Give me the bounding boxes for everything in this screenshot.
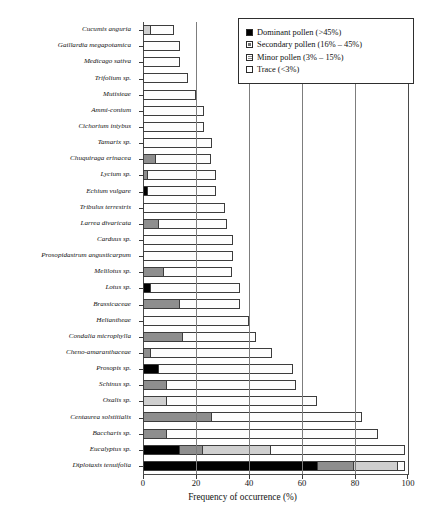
y-tick [139,143,143,144]
stacked-bar [143,299,241,309]
stacked-bar [143,251,233,261]
y-tick [139,418,143,419]
bar-row [143,348,408,358]
bar-segment-trace [143,122,204,132]
bar-segment-trace [166,429,378,439]
y-axis-label: Prosopidastrum angusticarpum [41,252,131,259]
bar-row [143,380,408,390]
y-axis-label: Tribulus terrestris [80,204,131,211]
gridline-80 [355,22,356,474]
legend: Dominant pollen (>45%) Secondary pollen … [238,18,414,84]
y-tick [139,434,143,435]
bar-segment-secondary [143,154,156,164]
stacked-bar [143,122,204,132]
y-tick [139,62,143,63]
y-tick [139,466,143,467]
bar-segment-secondary [143,332,183,342]
y-tick [139,95,143,96]
bar-row [143,299,408,309]
legend-item-minor: Minor pollen (3% – 15%) [246,53,407,62]
y-tick [139,192,143,193]
y-axis-label: Condalia microphylla [69,333,131,340]
bar-row [143,90,408,100]
stacked-bar [143,412,363,422]
y-tick [139,224,143,225]
bar-segment-secondary [143,380,167,390]
bar-segment-trace [143,106,204,116]
stacked-bar [143,332,257,342]
y-axis-label: Cichorium intybus [78,123,131,130]
bar-segment-trace [143,41,180,51]
legend-item-trace: Trace (<3%) [246,65,407,74]
y-tick [139,111,143,112]
bar-row [143,122,408,132]
bar-row [143,316,408,326]
bar-segment-dominant [143,364,159,374]
y-tick [139,46,143,47]
bar-segment-trace [158,219,227,229]
axis-line-right [408,22,409,474]
stacked-bar [143,364,294,374]
stacked-bar [143,154,212,164]
legend-label-minor: Minor pollen (3% – 15%) [257,53,344,62]
stacked-bar [143,429,379,439]
bar-segment-trace [143,138,212,148]
stacked-bar [143,219,228,229]
legend-swatch-minor-icon [246,54,253,61]
y-tick [139,369,143,370]
bar-segment-trace [155,154,211,164]
bar-segment-trace [143,251,233,261]
x-tick-label-60: 60 [298,478,307,488]
stacked-bar [143,283,241,293]
y-axis-label: Carduus sp. [97,236,131,243]
y-tick [139,79,143,80]
y-axis-label: Prosopis sp. [96,365,131,372]
stacked-bar [143,106,204,116]
bar-row [143,235,408,245]
bar-row [143,429,408,439]
bar-segment-minor [353,461,398,471]
y-axis-label: Echium vulgare [86,188,131,195]
y-axis-label: Eucalyptus sp. [90,446,131,453]
bar-row [143,283,408,293]
bar-segment-trace [147,186,216,196]
y-axis-label: Trifolium sp. [95,75,131,82]
pollen-frequency-chart: Cucumis anguriaGaillardia megapotamicaMe… [0,0,427,518]
bar-segment-secondary [143,412,212,422]
bar-row [143,106,408,116]
bar-segment-secondary [143,219,159,229]
stacked-bar [143,25,175,35]
bar-segment-trace [158,364,293,374]
bar-row [143,170,408,180]
stacked-bar [143,90,196,100]
y-axis-label: Mutisieae [103,91,131,98]
y-axis-label: Gaillardia megapotamica [58,42,131,49]
stacked-bar [143,203,225,213]
plot-area [143,22,408,474]
bar-rows [143,22,408,474]
y-axis-label: Lotus sp. [105,284,131,291]
y-axis-label: Diplotaxis tenuifolia [72,462,131,469]
y-tick [139,288,143,289]
stacked-bar [143,461,408,471]
y-tick [139,305,143,306]
y-axis-label: Heliantheae [96,317,131,324]
x-axis-title: Frequency of occurrence (%) [0,492,427,502]
bar-row [143,219,408,229]
y-axis-label: Cucumis anguria [82,26,131,33]
y-axis-label: Oxalis sp. [103,397,131,404]
bar-segment-trace [143,90,196,100]
y-axis-label: Lycium sp. [100,171,131,178]
bar-row [143,203,408,213]
y-axis-label: Schinus sp. [99,381,131,388]
legend-swatch-secondary-icon [246,41,253,48]
legend-item-secondary: Secondary pollen (16% – 45%) [246,40,407,49]
y-tick [139,450,143,451]
legend-swatch-trace-icon [246,66,253,73]
bar-segment-trace [150,25,174,35]
bar-row [143,461,408,471]
bar-segment-trace [211,412,362,422]
bar-row [143,396,408,406]
bar-row [143,186,408,196]
y-axis-label: Brassicaceae [93,301,131,308]
